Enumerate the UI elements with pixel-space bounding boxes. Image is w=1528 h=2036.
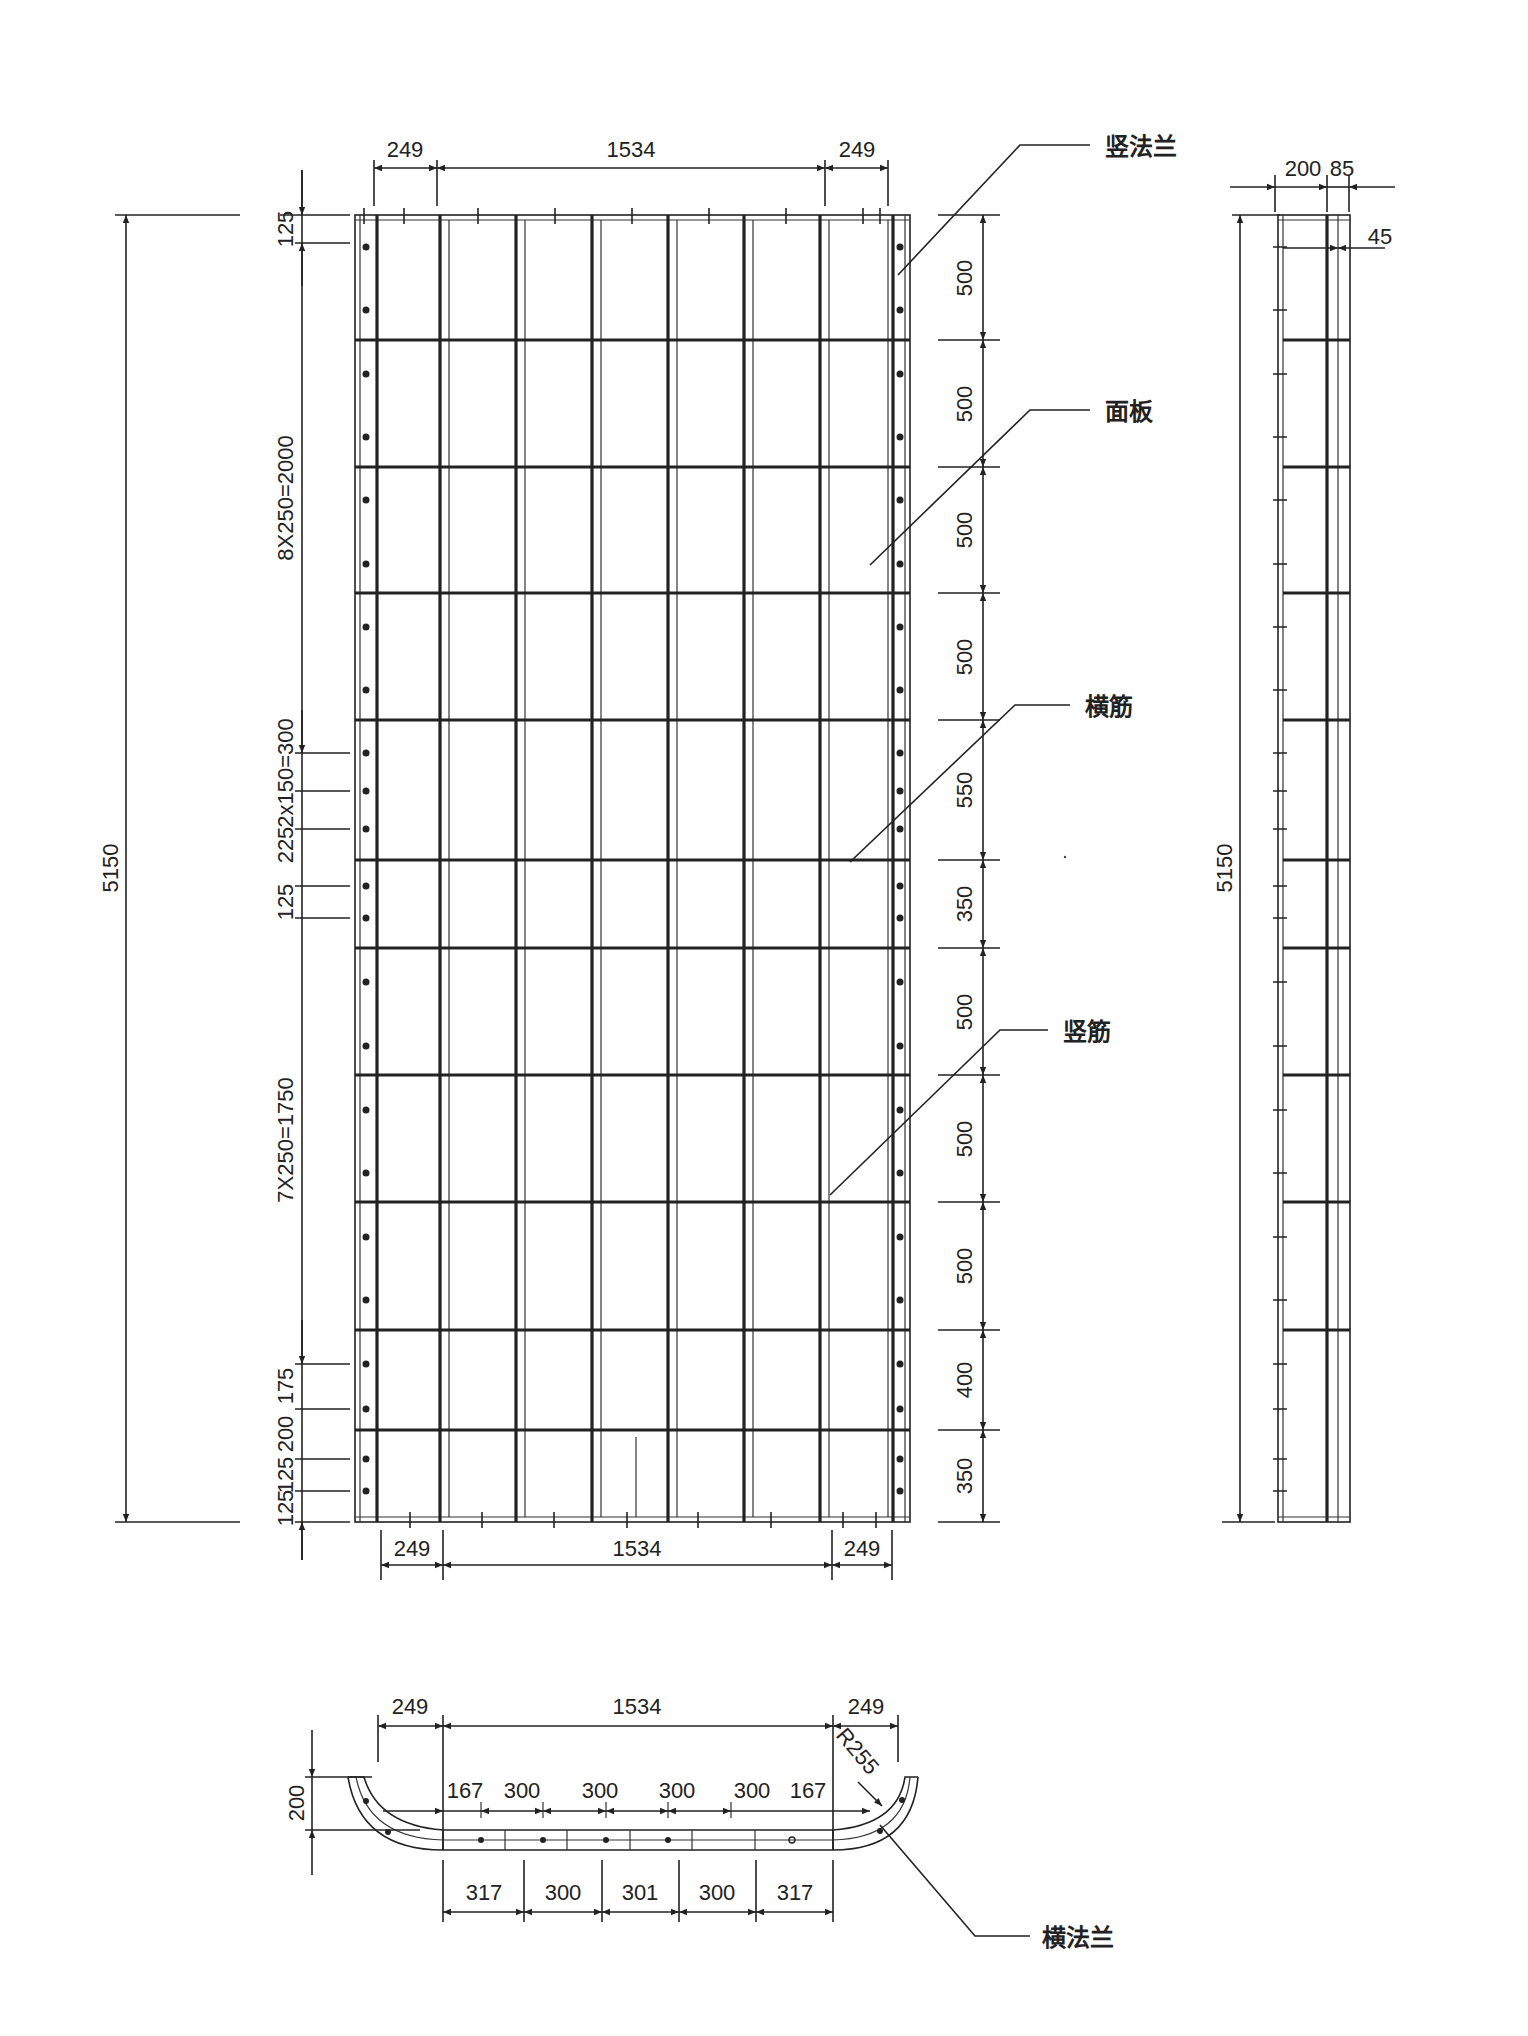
dim-right-10: 350	[952, 1458, 977, 1495]
dim-right-1: 500	[952, 386, 977, 423]
front-bottom-dimensions: 249 1534 249	[381, 1530, 892, 1580]
dim-right-2: 500	[952, 512, 977, 549]
side-overall-height: 5150	[1212, 844, 1237, 893]
dim-left-7: 200	[273, 1416, 298, 1453]
front-right-dimensions: 500 500 500 500 550 350 500 500 500 400 …	[938, 215, 1000, 1522]
section-inner-dim-4: 300	[734, 1778, 771, 1803]
dim-left-4: 125	[273, 884, 298, 921]
section-bottom-dim-1: 300	[545, 1880, 582, 1905]
callout-vertical-flange: 竖法兰	[1105, 133, 1177, 161]
bolt-holes	[363, 244, 904, 1495]
callout-horizontal-rib: 横筋	[1085, 693, 1133, 721]
front-top-dimensions: 249 1534 249	[374, 137, 888, 206]
side-dim-200: 200	[1285, 156, 1322, 181]
section-inner-dim-5: 167	[790, 1778, 827, 1803]
dim-right-4: 550	[952, 772, 977, 809]
dim-left-9: 125	[273, 1490, 298, 1527]
dim-overall-height: 5150	[98, 844, 123, 893]
front-view: 249 1534 249 249 1534 249 5150	[98, 133, 1177, 1580]
section-bottom-dim-4: 317	[777, 1880, 814, 1905]
section-inner-dim-3: 300	[659, 1778, 696, 1803]
dim-right-6: 500	[952, 994, 977, 1031]
dim-left-0: 125	[273, 211, 298, 248]
side-dim-45: 45	[1368, 224, 1392, 249]
front-callouts: 竖法兰 面板 横筋 竖筋	[830, 133, 1177, 1195]
section-dim-top-center: 1534	[613, 1694, 662, 1719]
callout-face-plate: 面板	[1105, 398, 1154, 426]
dim-left-5: 7X250=1750	[273, 1077, 298, 1202]
dim-right-7: 500	[952, 1121, 977, 1158]
callout-vertical-rib: 竖筋	[1063, 1018, 1111, 1046]
dim-left-8: 125	[273, 1457, 298, 1494]
side-dim-85: 85	[1330, 156, 1354, 181]
section-dim-top-right: 249	[848, 1694, 885, 1719]
section-bottom-dim-0: 317	[466, 1880, 503, 1905]
dim-bottom-right: 249	[844, 1536, 881, 1561]
dim-bottom-left: 249	[394, 1536, 431, 1561]
section-bottom-dim-3: 300	[699, 1880, 736, 1905]
dim-top-center: 1534	[607, 137, 656, 162]
section-inner-dim-1: 300	[504, 1778, 541, 1803]
front-left-dimensions: 125 8X250=2000 2x150=300 225 125 7X250=1…	[273, 170, 350, 1560]
dim-top-right: 249	[839, 137, 876, 162]
dim-top-left: 249	[387, 137, 424, 162]
dim-bottom-center: 1534	[613, 1536, 662, 1561]
section-view: 249 1534 249 167 300 300 300 300 167	[284, 1694, 1114, 1952]
section-radius: R255	[831, 1723, 884, 1779]
dim-right-0: 500	[952, 260, 977, 297]
dim-left-2: 2x150=300	[273, 718, 298, 828]
dim-left-3: 225	[273, 827, 298, 864]
formwork-drawing: 249 1534 249 249 1534 249 5150	[0, 0, 1528, 2036]
dim-left-6: 175	[273, 1368, 298, 1405]
vertical-ribs	[377, 215, 893, 1522]
section-dim-top-left: 249	[392, 1694, 429, 1719]
dim-right-9: 400	[952, 1362, 977, 1399]
panel-outline	[355, 215, 910, 1522]
section-bottom-dim-2: 301	[622, 1880, 659, 1905]
callout-horizontal-flange: 横法兰	[1042, 1924, 1114, 1952]
section-height-dim: 200	[284, 1785, 309, 1822]
dim-left-1: 8X250=2000	[273, 435, 298, 560]
dim-right-5: 350	[952, 886, 977, 923]
horizontal-ribs	[355, 340, 910, 1430]
dim-right-8: 500	[952, 1248, 977, 1285]
section-inner-dim-0: 167	[447, 1778, 484, 1803]
side-view: 200 85 45 5150	[1212, 156, 1395, 1522]
front-overall-height: 5150	[98, 215, 240, 1522]
section-inner-dim-2: 300	[582, 1778, 619, 1803]
dim-right-3: 500	[952, 639, 977, 676]
